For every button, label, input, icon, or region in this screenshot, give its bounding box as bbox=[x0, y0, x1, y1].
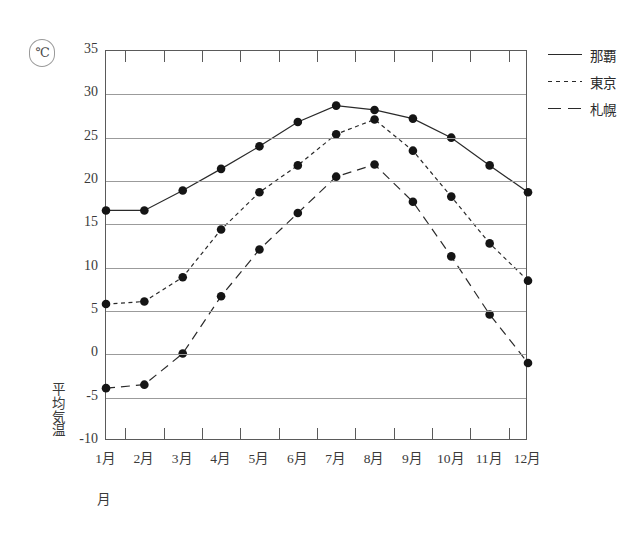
data-point bbox=[409, 198, 418, 207]
x-tick-label: 10月 bbox=[437, 447, 464, 467]
gridline bbox=[106, 268, 526, 269]
legend-line-swatch bbox=[548, 81, 582, 82]
x-tick-top bbox=[509, 51, 510, 62]
x-tick-top bbox=[125, 51, 126, 62]
x-tick-label: 12月 bbox=[514, 447, 541, 467]
gridline bbox=[106, 224, 526, 225]
y-tick-label: 15 bbox=[64, 215, 98, 229]
data-point bbox=[217, 225, 226, 234]
x-tick-top bbox=[240, 51, 241, 62]
x-tick-label: 5月 bbox=[249, 447, 269, 467]
data-point bbox=[140, 206, 149, 215]
x-tick-top bbox=[394, 51, 395, 62]
x-tick-label: 6月 bbox=[287, 447, 307, 467]
legend-line-swatch bbox=[548, 108, 582, 109]
data-point bbox=[102, 206, 111, 215]
data-point bbox=[332, 101, 341, 110]
gridline bbox=[106, 354, 526, 355]
x-tick-bottom bbox=[125, 428, 126, 439]
y-tick-label: 30 bbox=[64, 85, 98, 99]
y-tick-label: 35 bbox=[64, 42, 98, 56]
data-point bbox=[217, 292, 226, 301]
x-tick-label: 4月 bbox=[210, 447, 230, 467]
legend-label: 那覇 bbox=[590, 45, 616, 65]
gridline bbox=[106, 398, 526, 399]
legend-line-swatch bbox=[548, 54, 582, 55]
x-tick-label: 7月 bbox=[325, 447, 345, 467]
data-point bbox=[294, 209, 303, 218]
data-point bbox=[294, 118, 303, 127]
x-tick-bottom bbox=[279, 428, 280, 439]
y-axis-title-char: 温 bbox=[48, 424, 68, 438]
legend-label: 札幌 bbox=[590, 99, 616, 119]
gridline bbox=[106, 94, 526, 95]
plot-area bbox=[105, 50, 527, 440]
data-point bbox=[255, 142, 264, 151]
data-point bbox=[140, 297, 149, 306]
data-point bbox=[178, 186, 187, 195]
x-axis-title: 月 bbox=[97, 488, 110, 508]
data-point bbox=[524, 276, 533, 285]
data-point bbox=[447, 192, 456, 201]
y-axis-title-char: 均 bbox=[48, 397, 68, 411]
gridline bbox=[106, 181, 526, 182]
data-point bbox=[485, 161, 494, 170]
y-tick-label: 25 bbox=[64, 129, 98, 143]
data-point bbox=[217, 165, 226, 174]
data-point bbox=[370, 160, 379, 169]
x-tick-top bbox=[432, 51, 433, 62]
temperature-line-chart: ℃ 35302520151050-5-10 平均気温 1月2月3月4月5月6月7… bbox=[0, 0, 642, 542]
legend-item-札幌[interactable]: 札幌 bbox=[548, 95, 638, 122]
x-tick-label: 11月 bbox=[476, 447, 502, 467]
data-point bbox=[370, 106, 379, 115]
data-point bbox=[102, 300, 111, 309]
y-tick-label: 0 bbox=[64, 345, 98, 359]
x-tick-bottom bbox=[164, 428, 165, 439]
data-point bbox=[447, 252, 456, 261]
x-tick-label: 9月 bbox=[402, 447, 422, 467]
x-tick-bottom bbox=[394, 428, 395, 439]
series-lines bbox=[106, 51, 528, 441]
data-point bbox=[140, 380, 149, 389]
data-point bbox=[524, 359, 533, 368]
x-tick-bottom bbox=[470, 428, 471, 439]
gridline bbox=[106, 311, 526, 312]
data-point bbox=[370, 115, 379, 124]
series-line-那覇 bbox=[106, 106, 528, 211]
y-tick-label: 20 bbox=[64, 172, 98, 186]
legend-item-東京[interactable]: 東京 bbox=[548, 68, 638, 95]
legend-item-那覇[interactable]: 那覇 bbox=[548, 41, 638, 68]
x-tick-label: 2月 bbox=[133, 447, 153, 467]
x-tick-bottom bbox=[317, 428, 318, 439]
unit-badge: ℃ bbox=[29, 39, 55, 67]
y-axis-title-char: 気 bbox=[48, 411, 68, 425]
x-tick-bottom bbox=[240, 428, 241, 439]
data-point bbox=[255, 188, 264, 197]
x-tick-bottom bbox=[202, 428, 203, 439]
x-tick-top bbox=[202, 51, 203, 62]
x-tick-label: 3月 bbox=[172, 447, 192, 467]
x-tick-top bbox=[317, 51, 318, 62]
data-point bbox=[485, 239, 494, 248]
y-tick-label: -10 bbox=[64, 432, 98, 446]
data-point bbox=[409, 146, 418, 155]
x-tick-top bbox=[164, 51, 165, 62]
x-tick-top bbox=[355, 51, 356, 62]
y-tick-label: -5 bbox=[64, 389, 98, 403]
legend: 那覇東京札幌 bbox=[548, 41, 638, 122]
x-tick-top bbox=[470, 51, 471, 62]
y-axis-title-char: 平 bbox=[48, 383, 68, 397]
data-point bbox=[255, 245, 264, 254]
data-point bbox=[524, 188, 533, 197]
x-tick-top bbox=[279, 51, 280, 62]
data-point bbox=[409, 114, 418, 123]
x-tick-label: 1月 bbox=[95, 447, 115, 467]
x-tick-bottom bbox=[509, 428, 510, 439]
gridline bbox=[106, 138, 526, 139]
y-tick-label: 5 bbox=[64, 302, 98, 316]
data-point bbox=[178, 273, 187, 282]
x-tick-bottom bbox=[355, 428, 356, 439]
y-axis-title: 平均気温 bbox=[48, 383, 68, 438]
x-axis-tick-labels: 1月2月3月4月5月6月7月8月9月10月11月12月 bbox=[0, 447, 642, 469]
data-point bbox=[332, 172, 341, 181]
